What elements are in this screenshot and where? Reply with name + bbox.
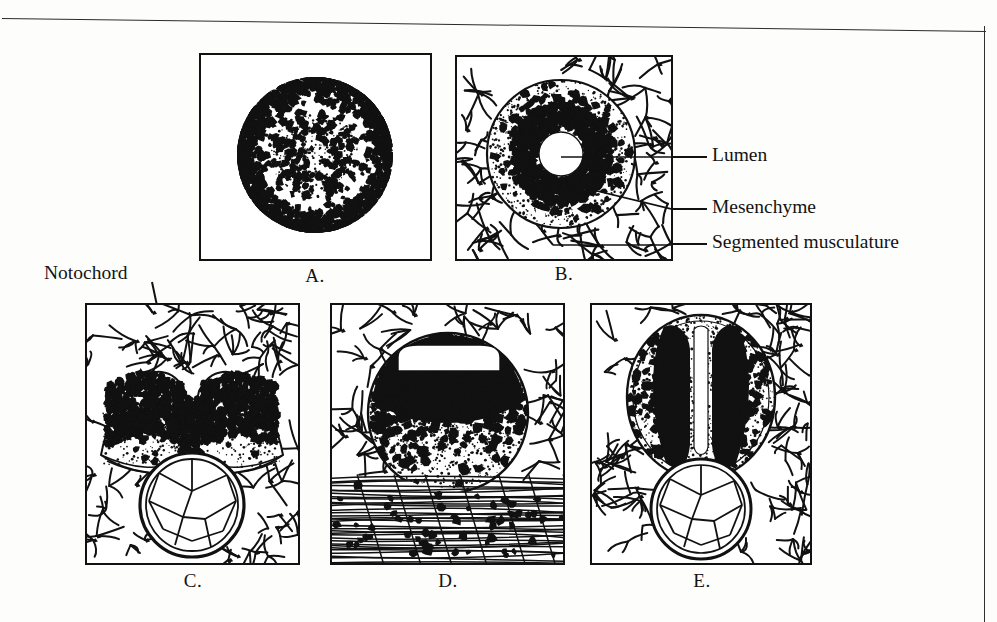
panel-a [199, 53, 432, 261]
panel-d-letter: D. [408, 570, 488, 592]
panel-d [330, 303, 565, 565]
lumen-leader [673, 156, 707, 158]
central-lumen [539, 132, 583, 176]
label-mesenchyme: Mesenchyme [712, 196, 816, 218]
panel-b [455, 55, 673, 261]
segmented-musculature-leader [673, 243, 707, 245]
panel-e [590, 303, 812, 565]
panel-c-drawing [87, 305, 298, 563]
panel-c-letter: C. [153, 570, 233, 592]
panel-b-letter: B. [524, 263, 604, 285]
panel-a-letter: A. [275, 265, 355, 287]
vertical-slit-lumen [694, 326, 708, 455]
figure-page: A. [0, 0, 997, 622]
panel-e-letter: E. [662, 570, 742, 592]
panel-c [85, 303, 300, 565]
page-border-right [984, 26, 985, 622]
label-segmented-musculature: Segmented musculature [712, 231, 899, 253]
panel-d-drawing [332, 305, 563, 563]
panel-b-drawing [457, 57, 671, 259]
mesenchyme-leader [673, 208, 707, 210]
notochord [140, 453, 244, 557]
page-border-top [2, 18, 986, 32]
panel-e-drawing [592, 305, 810, 563]
panel-a-drawing [201, 55, 430, 259]
label-lumen: Lumen [712, 144, 767, 166]
notochord-e [651, 459, 751, 559]
slit-lumen [398, 345, 500, 371]
label-notochord: Notochord [44, 262, 127, 284]
